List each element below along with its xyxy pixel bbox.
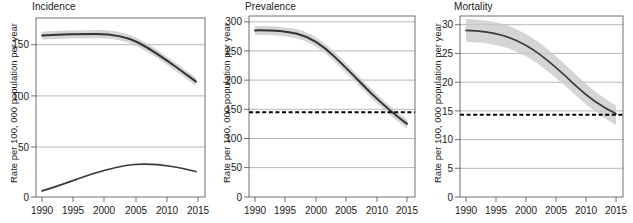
y-ticks-incidence [31,45,36,197]
ci-band-incidence-upper [42,30,196,86]
plot-area-prevalence: 300 250 200 150 100 50 0 1990 1995 2000 … [211,0,422,223]
y-tick-label: 20 [442,77,454,88]
x-tick-label: 2005 [335,205,358,216]
x-ticks-mortality [466,197,616,202]
plot-area-incidence: 150 100 50 0 1990 1995 2000 2005 2010 20… [0,0,211,223]
x-tick-label: 1995 [485,205,508,216]
ci-band-mortality [466,19,616,125]
trend-line-incidence-lower [42,164,196,191]
x-tick-label: 2005 [125,205,148,216]
x-tick-label: 1990 [244,205,267,216]
y-tick-label: 5 [447,163,453,174]
y-tick-label: 0 [236,192,242,203]
x-tick-label: 1990 [455,205,478,216]
y-tick-label: 250 [225,46,242,57]
y-tick-label: 15 [442,106,454,117]
x-tick-label: 2000 [93,205,116,216]
y-tick-label: 200 [225,75,242,86]
y-tick-label: 0 [447,192,453,203]
panel-prevalence: Prevalence Rate per 100, 000 population … [211,0,422,223]
y-ticks-prevalence [244,22,249,197]
y-tick-label: 10 [442,134,454,145]
y-tick-label: 150 [225,104,242,115]
x-ticks-incidence [42,197,198,202]
y-ticks-mortality [455,25,460,197]
x-tick-label: 2015 [605,205,628,216]
x-tick-label: 2005 [545,205,568,216]
y-tick-label: 0 [23,192,29,203]
trend-line-incidence-upper [42,34,196,82]
y-tick-label: 150 [12,39,29,50]
y-tick-label: 25 [442,48,454,59]
y-tick-label: 50 [18,142,30,153]
x-tick-label: 1995 [274,205,297,216]
x-tick-label: 2000 [515,205,538,216]
panel-incidence: Incidence Rate per 100, 000 population p… [0,0,211,223]
y-tick-label: 50 [231,162,243,173]
plot-area-mortality: 30 25 20 15 10 5 0 1990 1995 2000 2005 2… [422,0,633,223]
y-tick-label: 100 [225,133,242,144]
x-ticks-prevalence [255,197,407,202]
y-tick-label: 300 [225,16,242,27]
x-tick-label: 2015 [187,205,210,216]
x-tick-label: 1990 [31,205,54,216]
x-tick-label: 1995 [62,205,85,216]
three-panel-trend-figure: Incidence Rate per 100, 000 population p… [0,0,633,223]
gridlines-incidence [36,45,205,147]
y-tick-label: 30 [442,19,454,30]
x-tick-label: 2010 [366,205,389,216]
panel-mortality: Mortality Rate per 100, 000 population p… [422,0,633,223]
x-tick-label: 2000 [305,205,328,216]
x-tick-label: 2015 [396,205,419,216]
y-tick-label: 100 [12,91,29,102]
x-tick-label: 2010 [156,205,179,216]
gridlines-prevalence [249,22,415,168]
x-tick-label: 2010 [575,205,598,216]
